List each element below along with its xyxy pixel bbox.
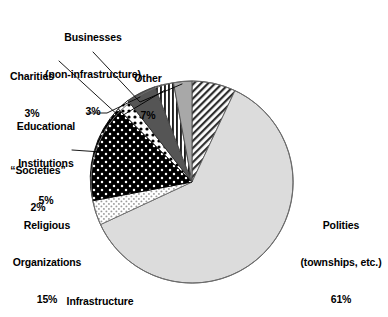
label-religious-line1: Religious (2, 219, 92, 231)
label-educational-line1: Educational (4, 120, 88, 132)
label-polities-line2: (townships, etc.) (297, 256, 385, 268)
label-charities-line1: Charities (4, 70, 60, 82)
pie-chart: Businesses (non-infrastructure) 3% Chari… (0, 0, 388, 317)
label-infrastructure-companies: Infrastructure Companies 4% (55, 270, 145, 317)
label-polities-value: 61% (297, 293, 385, 305)
label-societies-line1: “Societies” (4, 164, 72, 176)
label-other: Other 7% (117, 47, 179, 146)
label-religious-line2: Organizations (2, 256, 92, 268)
label-other-value: 7% (117, 109, 179, 121)
label-polities: Polities (townships, etc.) 61% (297, 194, 385, 317)
label-businesses-line1: Businesses (30, 31, 156, 43)
label-polities-line1: Polities (297, 219, 385, 231)
label-other-line1: Other (117, 72, 179, 84)
label-infrastructure-line1: Infrastructure (55, 295, 145, 307)
